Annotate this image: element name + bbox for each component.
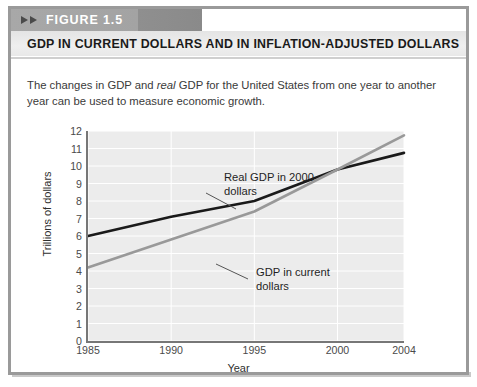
figure-title-strip: GDP IN CURRENT DOLLARS AND IN INFLATION-…: [11, 31, 466, 56]
figure-number-label: FIGURE 1.5: [46, 13, 123, 27]
x-tick-label: 2004: [392, 344, 416, 356]
title-divider: [11, 57, 466, 59]
series-annotation-real-gdp: Real GDP in 2000 dollars: [224, 170, 314, 198]
x-tick-label: 1990: [159, 344, 183, 356]
double-chevron-right-icon: [21, 16, 37, 24]
y-tick-label: 2: [62, 300, 82, 312]
y-tick-label: 9: [62, 178, 82, 190]
annotation-nominal-line2: dollars: [256, 279, 330, 293]
annotation-real-line1: Real GDP in 2000: [224, 170, 314, 184]
y-tick-label: 5: [62, 248, 82, 260]
figure-page: FIGURE 1.5 GDP IN CURRENT DOLLARS AND IN…: [0, 0, 477, 387]
y-axis-ticks: 1211109876543210: [60, 122, 82, 370]
x-tick-label: 2000: [326, 344, 350, 356]
y-tick-label: 12: [62, 125, 82, 137]
gdp-line-chart: Trillions of dollars 1211109876543210 Re…: [16, 122, 461, 370]
figure-badge-band: FIGURE 1.5: [11, 9, 466, 31]
x-axis-line: [86, 341, 404, 343]
y-tick-label: 3: [62, 283, 82, 295]
annotation-real-line2: dollars: [224, 184, 314, 198]
y-tick-label: 8: [62, 195, 82, 207]
x-axis-label: Year: [16, 362, 461, 374]
x-tick-label: 1995: [243, 344, 267, 356]
y-axis-label: Trillions of dollars: [41, 139, 53, 289]
caption-italic-real: real: [157, 79, 176, 91]
plot-area: Real GDP in 2000 dollars GDP in current …: [88, 131, 404, 341]
caption-part-1: The changes in GDP and: [27, 79, 157, 91]
x-tick-label: 1985: [76, 344, 100, 356]
y-tick-label: 6: [62, 230, 82, 242]
y-tick-label: 7: [62, 213, 82, 225]
series-annotation-nominal-gdp: GDP in current dollars: [256, 265, 330, 293]
y-tick-label: 1: [62, 318, 82, 330]
figure-title: GDP IN CURRENT DOLLARS AND IN INFLATION-…: [27, 37, 459, 51]
y-tick-label: 11: [62, 143, 82, 155]
y-tick-label: 4: [62, 265, 82, 277]
y-axis-line: [86, 131, 88, 342]
annotation-leader-line: [216, 264, 248, 279]
y-tick-label: 10: [62, 160, 82, 172]
annotation-nominal-line1: GDP in current: [256, 265, 330, 279]
figure-caption: The changes in GDP and real GDP for the …: [27, 78, 451, 109]
